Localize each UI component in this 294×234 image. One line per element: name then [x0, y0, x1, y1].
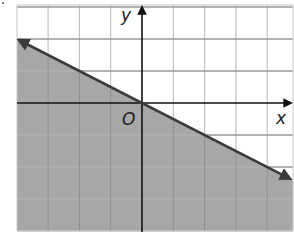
x-axis-label: x — [275, 108, 287, 128]
y-axis-label: y — [120, 5, 132, 25]
stray-dot — [2, 2, 4, 4]
inequality-graph: y x O — [0, 0, 294, 234]
origin-label: O — [122, 109, 135, 129]
